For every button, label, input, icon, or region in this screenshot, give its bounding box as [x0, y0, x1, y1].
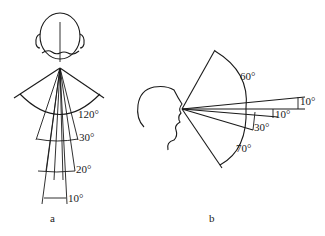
- head-front-icon: [36, 13, 84, 62]
- visual-field-diagram: 120° 30° 20° 10° a 60° 70° 10°: [0, 0, 325, 236]
- angle-label-10: 10°: [68, 192, 83, 204]
- figure-a: 120° 30° 20° 10° a: [14, 13, 104, 224]
- figure-b-label: b: [209, 212, 215, 224]
- angle-label-30: 30°: [79, 131, 94, 143]
- angle-label-10-up: 10°: [300, 95, 315, 107]
- figure-b: 60° 70° 10° 10° 30° b: [138, 50, 316, 224]
- angle-label-60: 60°: [240, 70, 255, 82]
- angle-label-30-down: 30°: [254, 121, 269, 133]
- angle-label-10-down: 10°: [275, 108, 290, 120]
- angle-label-20: 20°: [76, 163, 91, 175]
- head-profile-icon: [138, 86, 182, 150]
- angle-label-120: 120°: [78, 108, 99, 120]
- figure-a-label: a: [50, 212, 55, 224]
- angle-label-70: 70°: [236, 142, 251, 154]
